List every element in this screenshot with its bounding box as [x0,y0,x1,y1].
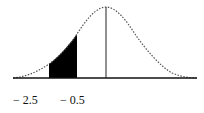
tick-label-left: − 2.5 [13,93,38,108]
bell-curve [13,7,197,78]
tick-label-right: − 0.5 [60,93,85,108]
